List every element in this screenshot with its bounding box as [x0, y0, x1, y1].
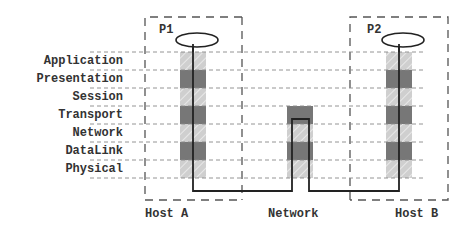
process-p1-icon — [176, 33, 218, 47]
layer-label-session: Session — [73, 90, 123, 104]
layer-label-physical: Physical — [65, 162, 123, 176]
layer-label-network: Network — [73, 126, 123, 140]
process-p2-icon — [382, 33, 424, 47]
host-b-label: Host B — [395, 207, 438, 221]
layer-label-transport: Transport — [58, 108, 123, 122]
process-p2-label: P2 — [367, 23, 381, 37]
layer-label-datalink: DataLink — [65, 144, 123, 158]
host-a-label: Host A — [145, 207, 188, 221]
network-label: Network — [268, 207, 318, 221]
layer-label-presentation: Presentation — [37, 72, 123, 86]
layer-label-application: Application — [44, 54, 123, 68]
process-p1-label: P1 — [159, 23, 173, 37]
layer-row-lines — [90, 52, 425, 178]
